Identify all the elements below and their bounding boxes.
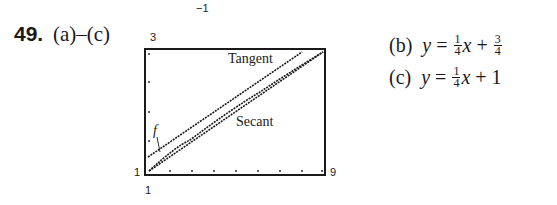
answer-b-coefficient: 14 xyxy=(454,34,462,57)
answer-c: (c) y = 14x + 1 xyxy=(389,66,502,91)
answer-b-equals: = xyxy=(436,34,447,56)
f-label: f xyxy=(153,123,157,139)
answer-b: (b) y = 14x + 34 xyxy=(389,34,503,59)
secant-label: Secant xyxy=(236,114,273,130)
answer-c-constant: 1 xyxy=(492,66,502,88)
answer-b-lhs: y xyxy=(422,34,431,56)
answer-c-lhs: y xyxy=(421,66,430,88)
answer-c-equals: = xyxy=(435,66,446,88)
answer-b-var: x xyxy=(463,34,472,56)
answer-b-constant: 34 xyxy=(494,34,502,57)
y-tick-dots xyxy=(148,53,150,142)
x-tick-dots xyxy=(169,170,323,172)
tangent-line xyxy=(148,52,302,157)
answer-c-plus: + xyxy=(475,66,486,88)
answer-b-label: (b) xyxy=(389,34,412,56)
graph xyxy=(0,0,557,205)
answer-b-plus: + xyxy=(476,34,487,56)
secant-line xyxy=(149,52,323,171)
tangent-label: Tangent xyxy=(228,51,273,67)
answer-c-label: (c) xyxy=(389,66,411,88)
answer-c-coefficient: 14 xyxy=(452,66,460,89)
answer-c-var: x xyxy=(461,66,470,88)
